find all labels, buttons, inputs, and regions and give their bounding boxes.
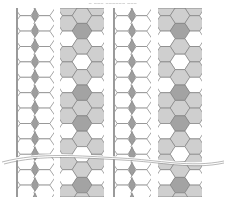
hex-tiling-diagram xyxy=(0,0,226,199)
hexagon xyxy=(170,0,190,8)
strip-edge xyxy=(113,8,115,197)
hex-strip-3 xyxy=(112,0,152,199)
diamond-tile xyxy=(129,0,135,8)
diamond-tile xyxy=(32,0,38,8)
hex-strips xyxy=(15,0,205,199)
strip-edge xyxy=(16,8,18,197)
hex-strip-2 xyxy=(57,0,106,199)
hexagon xyxy=(72,0,92,8)
hex-strip-4 xyxy=(155,0,204,199)
hex-strip-1 xyxy=(15,0,55,199)
